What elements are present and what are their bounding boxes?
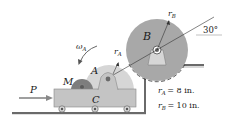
label-cart-c: C <box>92 94 100 105</box>
given-r-b: rB= 10 in. <box>158 101 200 111</box>
omega-a-arrowhead <box>78 59 83 65</box>
label-omega-a: ωA <box>76 42 87 52</box>
force-p-arrowhead <box>46 95 53 101</box>
ground-floor <box>12 112 146 114</box>
radius-a-arrowhead <box>116 62 119 67</box>
label-r-b: rB <box>168 9 176 19</box>
given-r-a: rA= 8 in. <box>158 86 194 96</box>
label-force-p: P <box>29 84 37 95</box>
label-angle-30: 30° <box>203 25 218 35</box>
label-r-a: rA <box>114 47 122 57</box>
disk-a-axle <box>106 77 111 82</box>
dynamics-diagram: B A M C P ωA rA rB 30° rA= 8 in. rB= 10 … <box>0 0 228 126</box>
label-motor-m: M <box>62 76 74 87</box>
label-disk-b: B <box>142 30 151 43</box>
label-disk-a: A <box>90 65 98 76</box>
